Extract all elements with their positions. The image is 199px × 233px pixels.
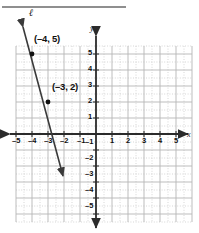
- y-tick-label: –5: [85, 201, 93, 210]
- y-tick-label: 2: [88, 96, 92, 105]
- x-tick-label: –3: [44, 136, 52, 145]
- y-tick-label: 4: [88, 64, 92, 73]
- x-tick-label: –4: [28, 136, 36, 145]
- x-tick-label: –5: [12, 136, 20, 145]
- y-tick-label: –3: [85, 169, 93, 178]
- y-axis-label: y: [90, 24, 94, 33]
- graph-canvas: [0, 0, 199, 233]
- x-tick-label: 2: [126, 136, 130, 145]
- y-tick-label: –4: [85, 185, 93, 194]
- point-marker: [46, 100, 51, 105]
- x-tick-label: 5: [174, 136, 178, 145]
- y-tick-label: –1: [85, 137, 93, 146]
- point-label-minus3-2: (–3, 2): [52, 81, 78, 92]
- line-label-ell: ℓ: [29, 7, 33, 18]
- x-tick-label: 3: [142, 136, 146, 145]
- x-tick-label: 4: [158, 136, 162, 145]
- point-label-minus4-5: (–4, 5): [34, 33, 60, 44]
- point-marker: [30, 52, 35, 57]
- plotted-line-l: [23, 27, 63, 176]
- y-tick-label: 5: [88, 48, 92, 57]
- y-tick-label: 3: [88, 80, 92, 89]
- coordinate-plane-figure: ℓ (–4, 5) (–3, 2) x y –5–4–3–2–112345543…: [0, 0, 199, 233]
- x-tick-label: 1: [110, 136, 114, 145]
- y-tick-label: 1: [88, 112, 92, 121]
- y-tick-label: –2: [85, 153, 93, 162]
- x-tick-label: –2: [60, 136, 68, 145]
- x-axis-label: x: [187, 130, 191, 139]
